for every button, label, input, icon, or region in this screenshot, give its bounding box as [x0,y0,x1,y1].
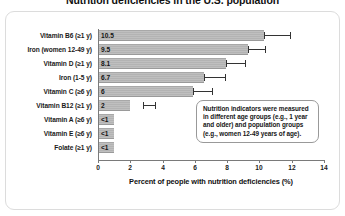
chart-card: Vitamin B6 (≥1 y) 10.5 Iron (women 12-49… [5,11,340,210]
error-bar-line [193,91,212,92]
bar-value-label: 10.5 [98,30,114,41]
annotation-callout: Nutrition indicators were measured in di… [196,100,319,143]
page-title: Nutrition deficiencies in the U.S. popul… [0,0,345,6]
category-label: Vitamin E (≥6 y) [6,127,92,141]
x-axis-tick-label: 10 [255,164,262,171]
y-axis-line [98,29,99,160]
bar [98,86,193,97]
bar-value-label: <1 [98,128,109,139]
bar-value-label: 6 [98,86,105,97]
x-axis-tick-label: 14 [320,164,327,171]
bar-value-label: 9.5 [98,44,110,55]
x-axis-tick [292,160,293,163]
error-bar-cap [143,102,144,109]
bar [98,58,226,69]
x-axis-tick-label: 12 [288,164,295,171]
plot-area: Vitamin B6 (≥1 y) 10.5 Iron (women 12-49… [6,12,340,210]
x-axis-tick [324,160,325,163]
bar-value-label: 6.7 [98,72,110,83]
x-axis-tick [163,160,164,163]
category-label: Vitamin B6 (≥1 y) [6,29,92,43]
bar-value-label: 8.1 [98,58,110,69]
category-label: Vitamin A (≥6 y) [6,113,92,127]
error-bar-line [143,105,155,106]
error-bar-cap [193,88,194,95]
error-bar-cap [155,102,156,109]
x-axis-tick [98,160,99,163]
error-bar-cap [212,88,213,95]
bar [98,30,264,41]
bar [98,72,204,83]
error-bar-line [226,63,245,64]
x-axis-tick [130,160,131,163]
error-bar-line [204,77,225,78]
bar-value-label: 2 [98,100,105,111]
error-bar-cap [225,74,226,81]
x-axis-tick [259,160,260,163]
bar [98,44,248,55]
x-axis-tick-label: 6 [193,164,197,171]
error-bar-cap [290,32,291,39]
error-bar-cap [204,74,205,81]
x-axis-tick-label: 0 [96,164,100,171]
category-label: Folate (≥1 y) [6,141,92,155]
x-axis-title: Percent of people with nutrition deficie… [98,177,324,186]
x-axis-tick-label: 4 [161,164,165,171]
category-label: Vitamin D (≥1 y) [6,57,92,71]
category-label: Iron (women 12-49 y) [6,43,92,57]
x-axis-tick [227,160,228,163]
error-bar-cap [264,32,265,39]
error-bar-line [264,35,290,36]
bar-value-label: <1 [98,114,109,125]
error-bar-cap [226,60,227,67]
x-axis-tick-label: 8 [225,164,229,171]
bar-value-label: <1 [98,142,109,153]
x-axis-tick-label: 2 [128,164,132,171]
error-bar-cap [248,46,249,53]
x-axis-line [98,160,324,161]
category-label: Vitamin C (≥6 y) [6,85,92,99]
error-bar-cap [265,46,266,53]
error-bar-line [248,49,265,50]
category-label: Vitamin B12 (≥1 y) [6,99,92,113]
error-bar-cap [245,60,246,67]
category-label: Iron (1-5 y) [6,71,92,85]
x-axis-tick [195,160,196,163]
